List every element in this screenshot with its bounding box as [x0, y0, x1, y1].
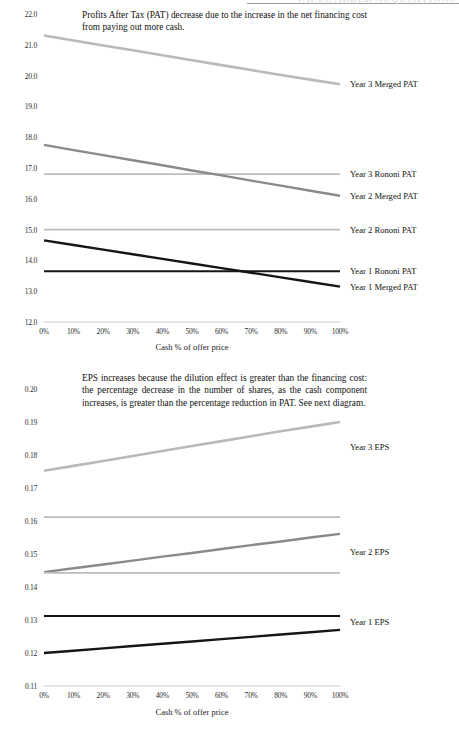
y-axis-tick-label: 16.0 [0, 194, 37, 203]
y-axis-tick-label: 0.12 [0, 649, 37, 658]
x-axis-tick-label: 10% [67, 691, 80, 700]
y-axis-tick-label: 0.13 [0, 616, 37, 625]
y-axis-tick-label: 0.11 [0, 682, 37, 691]
y-axis-tick-label: 15.0 [0, 225, 37, 234]
x-axis-tick-label: 100% [332, 327, 349, 336]
series-label-2: Year 3 Rononi PAT [350, 169, 416, 179]
x-axis-tick-label: 70% [245, 691, 258, 700]
x-axis-tick-label: 100% [332, 691, 349, 700]
x-axis-tick-label: 30% [126, 327, 139, 336]
x-axis-tick-label: 0% [39, 327, 49, 336]
x-axis-tick-label: 50% [185, 327, 198, 336]
pat-chart-x-axis-title: Cash % of offer price [155, 342, 228, 352]
series-line-1 [44, 36, 340, 85]
x-axis-tick-label: 30% [126, 691, 139, 700]
y-axis-tick-label: 20.0 [0, 71, 37, 80]
x-axis-tick-label: 20% [97, 691, 110, 700]
y-axis-tick-label: 14.0 [0, 256, 37, 265]
x-axis-tick-label: 60% [215, 327, 228, 336]
y-axis-tick-label: 0.18 [0, 451, 37, 460]
series-label-6: Year 1 Merged PAT [350, 282, 418, 292]
y-axis-tick-label: 0.20 [0, 385, 37, 394]
series-line-6 [44, 240, 340, 286]
y-axis-tick-label: 0.14 [0, 583, 37, 592]
series-label-3: Year 1 EPS [350, 617, 389, 627]
series-line-3 [44, 145, 340, 196]
x-axis-tick-label: 60% [215, 691, 228, 700]
x-axis-tick-label: 10% [67, 327, 80, 336]
x-axis-tick-label: 80% [274, 327, 287, 336]
y-axis-tick-label: 0.17 [0, 484, 37, 493]
series-line-6 [44, 630, 340, 653]
x-axis-tick-label: 80% [274, 691, 287, 700]
eps-chart: EPS increases because the dilution effec… [0, 364, 459, 729]
y-axis-tick-label: 12.0 [0, 318, 37, 327]
series-label-5: Year 1 Rononi PAT [350, 266, 416, 276]
series-label-1: Year 3 EPS [350, 442, 389, 452]
x-axis-tick-label: 40% [156, 327, 169, 336]
series-label-1: Year 3 Merged PAT [350, 79, 418, 89]
y-axis-tick-label: 19.0 [0, 102, 37, 111]
x-axis-tick-label: 50% [185, 691, 198, 700]
y-axis-tick-label: 0.16 [0, 517, 37, 526]
x-axis-tick-label: 90% [304, 691, 317, 700]
series-label-4: Year 2 Rononi PAT [350, 225, 416, 235]
x-axis-tick-label: 20% [97, 327, 110, 336]
x-axis-tick-label: 0% [39, 691, 49, 700]
y-axis-tick-label: 21.0 [0, 40, 37, 49]
x-axis-tick-label: 40% [156, 691, 169, 700]
series-label-3: Year 2 Merged PAT [350, 191, 418, 201]
y-axis-tick-label: 17.0 [0, 164, 37, 173]
y-axis-tick-label: 18.0 [0, 133, 37, 142]
y-axis-tick-label: 13.0 [0, 287, 37, 296]
pat-chart-canvas [0, 0, 459, 365]
document-page: VALUE ADDED ACQUISITIONS Profits After T… [0, 0, 459, 729]
series-line-3 [44, 534, 340, 572]
y-axis-tick-label: 0.19 [0, 418, 37, 427]
x-axis-tick-label: 90% [304, 327, 317, 336]
eps-chart-x-axis-title: Cash % of offer price [155, 707, 228, 717]
pat-chart: Profits After Tax (PAT) decrease due to … [0, 0, 459, 365]
series-line-1 [44, 422, 340, 471]
y-axis-tick-label: 0.15 [0, 550, 37, 559]
y-axis-tick-label: 22.0 [0, 10, 37, 19]
eps-chart-canvas [0, 364, 459, 729]
x-axis-tick-label: 70% [245, 327, 258, 336]
series-label-2: Year 2 EPS [350, 547, 389, 557]
